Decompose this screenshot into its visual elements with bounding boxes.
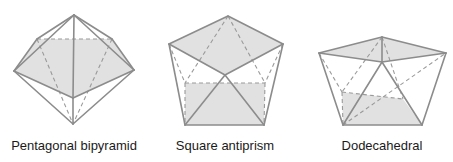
polyhedra-figure: Pentagonal bipyramid Square antiprism Do… [0,0,453,162]
visible-edge [37,15,74,39]
visible-edge [73,15,74,98]
square-antiprism-shape [169,16,283,125]
visible-edge [264,44,283,125]
visible-edge [74,15,112,39]
dodecahedral-shape [319,37,446,125]
square-antiprism-label: Square antiprism [176,138,274,154]
shaded-face [169,16,283,75]
pentagonal-bipyramid-shape [14,15,134,124]
shaded-face [185,83,265,125]
visible-edge [422,53,446,125]
visible-edge [319,53,343,125]
pentagonal-bipyramid-label: Pentagonal bipyramid [11,138,137,154]
dodecahedral-label: Dodecahedral [342,138,423,154]
visible-edge [169,44,185,125]
